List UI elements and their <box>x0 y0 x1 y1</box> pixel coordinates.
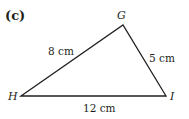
side-label-hi: 12 cm <box>83 102 116 114</box>
triangle-diagram: (c) G H I 8 cm 5 cm 12 cm <box>0 0 189 119</box>
triangle-ghi <box>21 25 166 96</box>
part-label: (c) <box>5 8 25 23</box>
side-label-hg: 8 cm <box>48 45 74 57</box>
vertex-label-i: I <box>169 90 175 103</box>
vertex-label-h: H <box>7 90 18 103</box>
side-label-gi: 5 cm <box>149 52 175 64</box>
vertex-label-g: G <box>117 9 126 22</box>
